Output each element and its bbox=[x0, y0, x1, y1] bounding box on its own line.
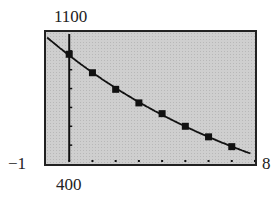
plot-area bbox=[46, 32, 255, 164]
x-tick-dot bbox=[208, 160, 210, 162]
x-tick-dot bbox=[231, 160, 233, 162]
data-point-marker bbox=[89, 69, 96, 76]
data-point-marker bbox=[182, 123, 189, 130]
x-tick-dot bbox=[138, 160, 140, 162]
x-tick-dot bbox=[161, 160, 163, 162]
xmin-label: −1 bbox=[8, 155, 26, 172]
x-tick-dot bbox=[254, 160, 255, 162]
data-point-marker bbox=[66, 51, 73, 58]
ymax-label: 1100 bbox=[54, 8, 87, 25]
x-tick-dot bbox=[68, 160, 70, 162]
data-point-marker bbox=[159, 110, 166, 117]
xmax-label: 8 bbox=[262, 155, 271, 172]
x-tick-dot bbox=[115, 160, 117, 162]
data-point-marker bbox=[228, 143, 235, 150]
x-tick-dot bbox=[184, 160, 186, 162]
ymin-label: 400 bbox=[56, 176, 82, 193]
data-point-marker bbox=[135, 99, 142, 106]
data-point-marker bbox=[205, 133, 212, 140]
x-tick-dot bbox=[91, 160, 93, 162]
calculator-graph-screen bbox=[44, 30, 257, 166]
data-point-marker bbox=[112, 86, 119, 93]
fitted-curve bbox=[47, 38, 250, 154]
